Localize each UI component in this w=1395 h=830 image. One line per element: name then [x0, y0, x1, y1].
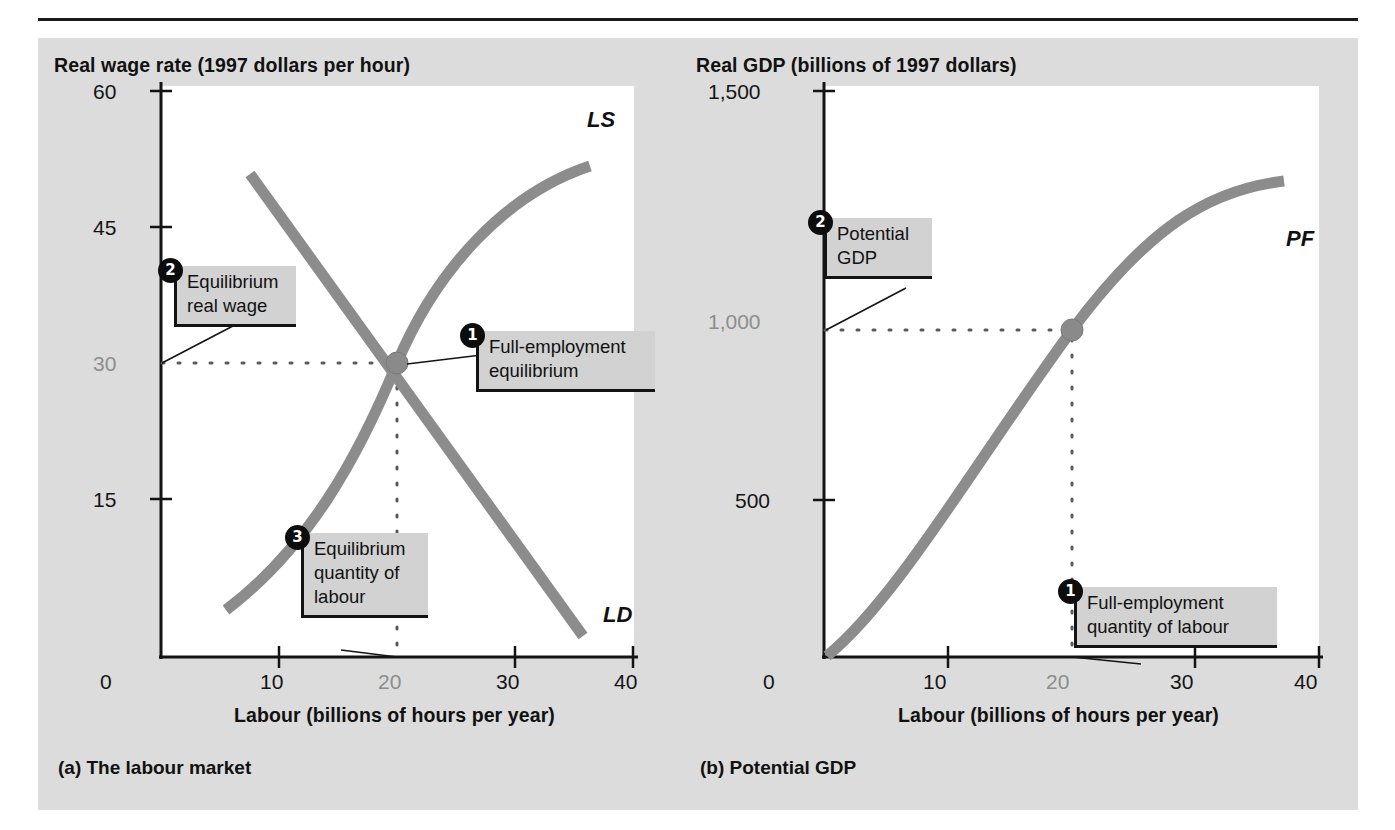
top-divider-rule — [38, 18, 1358, 21]
callout-full-employment-quantity-of-labour: Full-employment quantity of labour — [1074, 587, 1277, 648]
panel-b-xtick-0: 0 — [763, 670, 775, 694]
panel-b-x-axis-title: Labour (billions of hours per year) — [898, 704, 1219, 727]
figure-panel-background: Real wage rate (1997 dollars per hour) 6… — [38, 38, 1358, 810]
panel-b-plot-area — [824, 86, 1319, 657]
panel-b-xtick-30: 30 — [1170, 670, 1193, 694]
curve-label-pf: PF — [1286, 226, 1314, 252]
panel-b-leader-full-employment-quantity — [1072, 657, 1141, 664]
panel-b-ytick-1500: 1,500 — [708, 80, 761, 104]
panel-b-xtick-20: 20 — [1046, 670, 1069, 694]
badge-1-full-employment-quantity-of-labour: 1 — [1058, 579, 1083, 604]
figure-container: Real wage rate (1997 dollars per hour) 6… — [0, 0, 1395, 830]
panel-b-xtick-10: 10 — [923, 670, 946, 694]
panel-b-y-axis-title: Real GDP (billions of 1997 dollars) — [696, 54, 1017, 77]
chart-panel-b: Real GDP (billions of 1997 dollars) 1,50… — [38, 38, 1358, 810]
panel-b-caption: (b) Potential GDP — [700, 757, 856, 779]
panel-b-ytick-1000: 1,000 — [708, 310, 761, 334]
panel-b-xtick-40: 40 — [1294, 670, 1317, 694]
panel-b-ytick-500: 500 — [735, 489, 770, 513]
callout-potential-gdp: Potential GDP — [824, 218, 932, 279]
badge-2-potential-gdp: 2 — [808, 210, 833, 235]
